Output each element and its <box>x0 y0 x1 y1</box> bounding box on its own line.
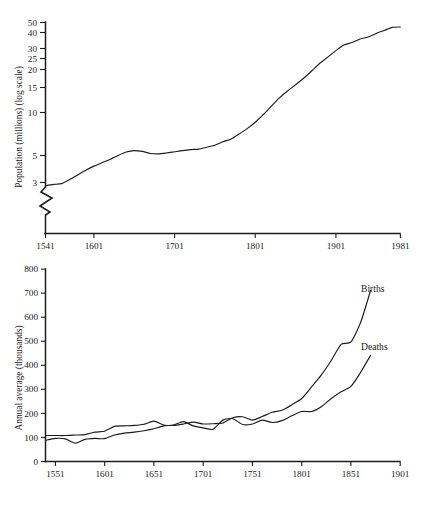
births-deaths-y-tick-labels: 0 100 200 300 400 500 600 700 800 <box>24 264 38 466</box>
y-axis-break-icon <box>40 187 52 215</box>
x-tick-label: 1981 <box>391 241 410 251</box>
y-tick-label: 200 <box>24 409 38 419</box>
x-tick-label: 1551 <box>46 469 65 479</box>
y-tick-label: 300 <box>24 384 38 394</box>
births-series-line <box>46 290 371 435</box>
x-tick-label: 1651 <box>145 469 164 479</box>
y-tick-label: 700 <box>24 288 38 298</box>
y-tick-label: 40 <box>28 28 38 38</box>
population-y-tick-labels: 50 40 30 25 20 15 10 5 3 <box>28 18 38 188</box>
x-tick-label: 1541 <box>36 241 55 251</box>
births-deaths-chart-svg: Annual average (thousands) 0 100 200 <box>0 258 421 507</box>
x-tick-label: 1801 <box>293 469 312 479</box>
births-deaths-chart-panel: Annual average (thousands) 0 100 200 <box>0 258 421 507</box>
y-tick-label: 20 <box>28 65 38 75</box>
y-tick-label: 25 <box>28 54 38 64</box>
x-tick-label: 1901 <box>391 469 410 479</box>
population-y-ticks <box>40 23 45 183</box>
population-chart-panel: Population (millions) (log scale) <box>0 0 421 258</box>
x-tick-label: 1751 <box>243 469 262 479</box>
x-tick-label: 1601 <box>96 469 115 479</box>
y-tick-label: 50 <box>28 18 38 28</box>
x-tick-label: 1701 <box>194 469 213 479</box>
x-tick-label: 1601 <box>85 241 104 251</box>
births-series-label: Births <box>361 283 385 294</box>
births-deaths-x-tick-labels: 1551 1601 1651 1701 1751 1801 1851 1901 <box>46 469 410 479</box>
population-x-tick-labels: 1541 1601 1701 1801 1901 1981 <box>36 241 410 251</box>
population-series-line <box>46 27 401 186</box>
y-tick-label: 15 <box>28 83 38 93</box>
y-tick-label: 0 <box>33 457 38 467</box>
y-tick-label: 10 <box>28 108 38 118</box>
y-tick-label: 500 <box>24 336 38 346</box>
y-tick-label: 100 <box>24 433 38 443</box>
deaths-series-line <box>46 355 371 443</box>
y-tick-label: 5 <box>32 151 37 161</box>
figure-container: Population (millions) (log scale) <box>0 0 421 507</box>
population-chart-svg: Population (millions) (log scale) <box>0 0 421 258</box>
y-tick-label: 30 <box>28 44 38 54</box>
deaths-series-label: Deaths <box>361 341 388 352</box>
y-tick-label: 800 <box>24 264 38 274</box>
x-tick-label: 1901 <box>327 241 346 251</box>
births-deaths-y-ticks <box>41 269 45 461</box>
population-y-axis-title: Population (millions) (log scale) <box>14 66 25 188</box>
population-x-ticks <box>46 234 401 238</box>
x-tick-label: 1701 <box>165 241 184 251</box>
x-tick-label: 1801 <box>246 241 265 251</box>
births-deaths-x-ticks <box>55 462 400 466</box>
y-tick-label: 600 <box>24 312 38 322</box>
y-tick-label: 3 <box>32 178 37 188</box>
y-tick-label: 400 <box>24 360 38 370</box>
x-tick-label: 1851 <box>342 469 361 479</box>
